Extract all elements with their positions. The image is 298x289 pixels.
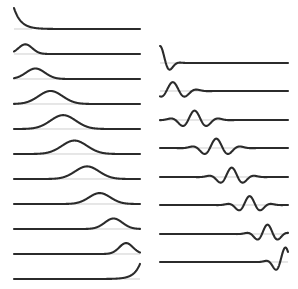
figure-root [0, 0, 298, 289]
figure-canvas [0, 0, 298, 289]
figure-background [0, 0, 298, 289]
